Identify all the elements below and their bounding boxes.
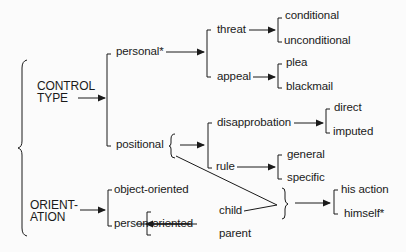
- node-conditional: conditional: [285, 9, 339, 22]
- node-personal: personal*: [116, 45, 164, 58]
- node-person-oriented: person-oriented: [114, 217, 193, 230]
- left-brace: [18, 60, 27, 236]
- node-child: child: [219, 204, 242, 217]
- node-unconditional: unconditional: [284, 34, 350, 47]
- root-label-control-line2: TYPE: [37, 92, 68, 105]
- node-appeal: appeal: [217, 70, 251, 83]
- node-parent: parent: [219, 227, 251, 240]
- node-object-oriented: object-oriented: [114, 183, 189, 196]
- node-specific: specific: [287, 171, 325, 184]
- node-direct: direct: [334, 101, 362, 114]
- node-general: general: [287, 148, 325, 161]
- node-threat: threat: [217, 23, 246, 36]
- root-label-orientation-line2: ATION: [30, 211, 65, 224]
- node-his-action: his action: [341, 183, 389, 196]
- node-disapprobation: disapprobation: [217, 116, 291, 129]
- node-plea: plea: [286, 56, 307, 69]
- node-positional: positional: [116, 138, 164, 151]
- node-himself: himself*: [344, 207, 384, 220]
- node-imputed: imputed: [333, 125, 373, 138]
- node-blackmail: blackmail: [286, 80, 333, 93]
- node-rule: rule: [216, 160, 235, 173]
